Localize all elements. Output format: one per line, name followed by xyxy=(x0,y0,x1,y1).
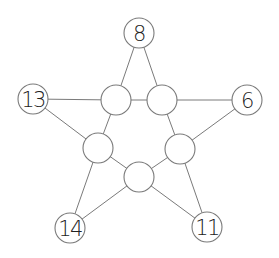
outer-node-right: 6 xyxy=(232,85,262,115)
outer-node-top: 8 xyxy=(124,18,154,48)
star-diagram: 81361411 xyxy=(0,0,279,258)
node-circle xyxy=(147,85,177,115)
inner-node-top-right xyxy=(147,85,177,115)
outer-node-left: 13 xyxy=(18,84,48,114)
node-label: 11 xyxy=(195,216,219,240)
node-label: 8 xyxy=(133,22,145,46)
outer-node-bottom-right: 11 xyxy=(192,212,222,242)
node-circle xyxy=(165,134,195,164)
node-label: 13 xyxy=(21,88,45,112)
node-label: 14 xyxy=(58,217,82,241)
edges-group xyxy=(33,33,247,228)
node-circle xyxy=(83,133,113,163)
inner-node-right xyxy=(165,134,195,164)
node-circle xyxy=(101,85,131,115)
inner-node-bottom xyxy=(124,162,154,192)
outer-node-bottom-left: 14 xyxy=(55,213,85,243)
node-label: 6 xyxy=(241,89,253,113)
inner-node-top-left xyxy=(101,85,131,115)
nodes-group: 81361411 xyxy=(18,18,262,243)
node-circle xyxy=(124,162,154,192)
inner-node-left xyxy=(83,133,113,163)
